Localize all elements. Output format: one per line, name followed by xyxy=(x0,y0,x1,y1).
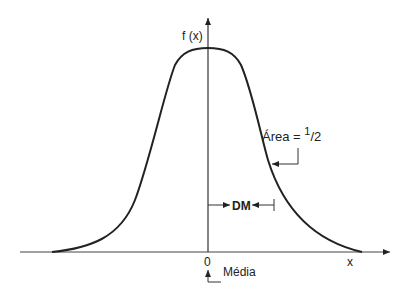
dm-label: DM xyxy=(232,199,251,213)
mean-pointer-arrow xyxy=(208,270,221,282)
mean-label: Média xyxy=(223,265,256,279)
area-label: Área = 1/2 xyxy=(262,125,321,144)
origin-label: 0 xyxy=(204,255,211,269)
y-axis-label: f (x) xyxy=(182,29,203,43)
bell-curve xyxy=(52,48,362,252)
normal-curve-diagram: f (x) Área = 1/2 DM 0 Média x xyxy=(0,0,408,301)
x-axis-label: x xyxy=(347,255,353,269)
area-pointer-arrow xyxy=(272,148,298,164)
